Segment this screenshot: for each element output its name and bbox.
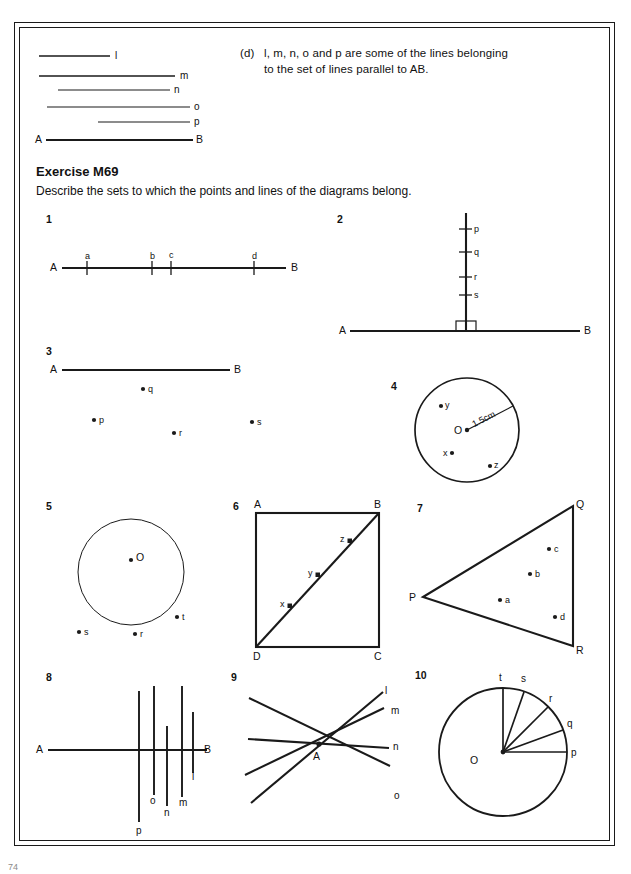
note-d-line1: l, m, n, o and p are some of the lines b… [264,48,508,60]
q8-line-o: o [150,796,156,806]
q1-diagram [62,261,286,275]
q3-point-s: s [257,418,262,427]
question-number-9: 9 [231,672,237,683]
q7-vertex-p: P [409,592,416,603]
question-number-8: 8 [46,672,52,683]
q3-point-p: p [99,416,104,425]
note-d: (d) l, m, n, o and p are some of the lin… [240,48,590,84]
q8-line-l: l [192,772,194,782]
q4-point-y: y [445,401,450,410]
q5-point-r: r [140,630,143,639]
exercise-heading: Exercise M69 [36,165,118,178]
q8-line-p: p [136,826,142,836]
q2-diagram [350,213,580,331]
parallel-label-m: m [180,71,188,81]
q6-diagram [256,513,379,647]
q10-centre-label: O [470,755,478,766]
q7-vertex-r: R [576,645,584,656]
q10-point-r: r [549,694,552,704]
q9-line-n: n [393,742,399,752]
q10-point-p: p [571,748,577,758]
q8-line-m: m [179,798,187,808]
q7-diagram [423,506,573,646]
q9-line-o: o [394,791,400,801]
q7-vertex-q: Q [576,499,584,510]
q2-point-r: r [474,273,477,282]
q10-point-s: s [521,674,526,684]
q8-line-n: n [164,808,170,818]
q9-diagram [245,692,390,803]
q3-label-a: A [50,364,57,375]
q6-vertex-a: A [254,499,261,510]
q5-diagram [77,519,184,636]
q4-point-z: z [494,461,499,470]
q7-point-a: a [505,596,510,605]
q3-diagram [62,370,254,435]
q5-centre-label: O [136,552,144,563]
question-number-4: 4 [391,381,397,392]
page-number: 74 [8,862,18,872]
q9-line-m: m [391,706,399,716]
q8-label-b: B [204,744,211,755]
exercise-instruction: Describe the sets to which the points an… [36,185,412,197]
parallel-label-l: l [115,51,117,61]
question-number-3: 3 [46,346,52,357]
q3-point-q: q [148,385,153,394]
q3-point-r: r [179,429,182,438]
q1-point-d: d [252,252,257,261]
note-d-line2: to the set of lines parallel to AB. [264,64,429,76]
parallel-label-b: B [196,134,203,145]
q9-line-l: l [385,686,387,696]
q10-diagram [439,688,567,816]
q6-point-z: z [340,535,345,544]
question-number-10: 10 [415,670,427,681]
question-number-5: 5 [46,501,52,512]
parallel-label-o: o [194,102,200,112]
q10-point-t: t [499,673,502,683]
note-d-marker: (d) [240,48,254,60]
textbook-page: (d) l, m, n, o and p are some of the lin… [0,0,631,874]
q2-point-s: s [474,291,479,300]
q3-label-b: B [234,364,241,375]
q6-vertex-c: C [374,651,382,662]
q2-label-b: B [584,325,591,336]
question-number-1: 1 [46,214,52,225]
q1-point-a: a [85,252,90,261]
q6-vertex-b: B [374,499,381,510]
q6-point-x: x [280,600,285,609]
q4-point-x: x [443,449,448,458]
q7-point-c: c [554,545,559,554]
parallel-label-a: A [35,134,42,145]
q9-point-a: A [313,751,320,762]
question-number-2: 2 [337,214,343,225]
question-number-7: 7 [417,503,423,514]
diagram-layer [0,0,631,874]
q2-label-a: A [339,325,346,336]
q6-point-y: y [308,569,313,578]
q1-point-c: c [169,251,174,260]
q10-point-q: q [567,719,573,729]
parallel-label-p: p [194,117,200,127]
q1-point-b: b [150,252,155,261]
q1-label-b: B [291,262,298,273]
q4-centre-label: O [454,425,462,436]
question-number-6: 6 [233,501,239,512]
q7-point-d: d [560,613,565,622]
q7-point-b: b [535,570,540,579]
q2-point-p: p [474,225,479,234]
q5-point-s: s [84,628,89,637]
q1-label-a: A [50,262,57,273]
q4-diagram [415,378,519,482]
q6-vertex-d: D [253,651,261,662]
q2-point-q: q [474,248,479,257]
q8-label-a: A [36,744,43,755]
parallel-label-n: n [174,85,180,95]
q5-point-t: t [182,613,185,622]
